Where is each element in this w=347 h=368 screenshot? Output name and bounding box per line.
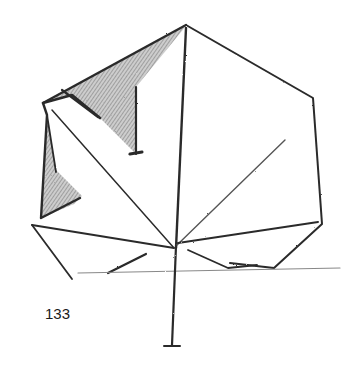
midrib xyxy=(176,28,186,248)
vein-left xyxy=(32,225,174,248)
figure-number: 133 xyxy=(45,305,70,322)
vein-lower-right xyxy=(178,222,318,243)
stem xyxy=(172,246,176,345)
